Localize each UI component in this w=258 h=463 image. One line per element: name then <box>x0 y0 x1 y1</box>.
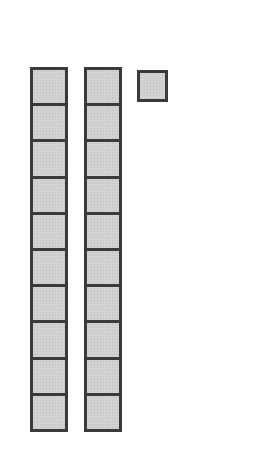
rod-cell <box>87 251 119 287</box>
rod-cell <box>87 396 119 429</box>
ten-rod <box>30 67 68 432</box>
rod-cell <box>87 323 119 359</box>
rod-cell <box>87 215 119 251</box>
rod-cell <box>33 360 65 396</box>
rod-cell <box>33 323 65 359</box>
rod-cell <box>33 251 65 287</box>
rod-cell <box>33 179 65 215</box>
rod-cell <box>33 287 65 323</box>
rod-cell <box>87 179 119 215</box>
rod-cell <box>87 106 119 142</box>
unit-cube <box>137 70 168 102</box>
rod-cell <box>87 287 119 323</box>
rod-cell <box>87 70 119 106</box>
rod-cell <box>33 142 65 178</box>
ten-rod <box>84 67 122 432</box>
rod-cell <box>87 360 119 396</box>
rod-cell <box>33 215 65 251</box>
rod-cell <box>87 142 119 178</box>
rod-cell <box>33 106 65 142</box>
rod-cell <box>33 396 65 429</box>
rod-cell <box>33 70 65 106</box>
